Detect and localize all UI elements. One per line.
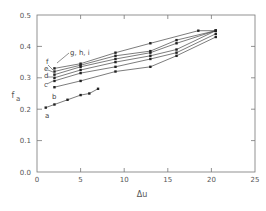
axes: 05101520250.00.10.20.30.40.5Δufa [12,12,260,200]
data-point [175,42,177,44]
label-a: a [45,112,49,120]
data-point [45,106,47,108]
data-point [149,42,151,44]
arrow-ghi [57,53,69,63]
data-point [149,55,151,57]
label-e: e [44,65,48,73]
label-c: c [44,81,48,89]
data-point [197,30,199,32]
data-point [53,77,55,79]
series-group [45,30,217,109]
data-point [53,103,55,105]
data-point [66,99,68,101]
data-point [149,50,151,52]
y-axis-label-subscript: a [16,95,20,103]
data-point [53,86,55,88]
data-point [79,62,81,64]
x-tick-label: 0 [35,176,39,184]
line-chart: 05101520250.00.10.20.30.40.5Δufa abcdefg… [0,0,266,211]
data-point [53,73,55,75]
arrow-e [48,70,53,72]
label-d: d [44,72,48,80]
data-point [215,33,217,35]
data-point [88,92,90,94]
data-point [53,70,55,72]
arrow-c [47,81,53,84]
data-point [114,70,116,72]
x-tick-label: 25 [251,176,260,184]
data-point [79,69,81,71]
label-ghi: g, h, i [70,49,90,57]
plot-frame [37,15,255,172]
y-tick-label: 0.5 [20,12,31,20]
data-point [114,66,116,68]
data-point [114,51,116,53]
y-axis-label: f [12,91,15,100]
data-point [114,61,116,63]
data-point [53,80,55,82]
y-tick-label: 0.1 [20,137,31,145]
data-point [79,80,81,82]
y-tick-label: 0.2 [20,106,31,114]
label-b: b [52,93,57,101]
data-point [114,55,116,57]
data-point [79,94,81,96]
label-f: f [46,58,49,66]
x-tick-label: 10 [120,176,129,184]
data-point [149,58,151,60]
x-tick-label: 20 [207,176,216,184]
y-tick-label: 0.0 [20,169,31,177]
series-line-c [54,34,215,81]
data-point [79,72,81,74]
x-axis-label: Δu [137,190,148,199]
data-point [175,51,177,53]
y-tick-label: 0.3 [20,74,31,82]
data-point [149,66,151,68]
data-point [175,48,177,50]
y-tick-label: 0.4 [20,43,32,51]
x-tick-label: 15 [163,176,172,184]
data-point [175,55,177,57]
data-point [215,30,217,32]
x-tick-label: 5 [78,176,82,184]
data-point [53,67,55,69]
data-point [215,36,217,38]
arrow-f [48,65,53,70]
data-point [97,88,99,90]
data-point [114,58,116,60]
data-point [175,39,177,41]
